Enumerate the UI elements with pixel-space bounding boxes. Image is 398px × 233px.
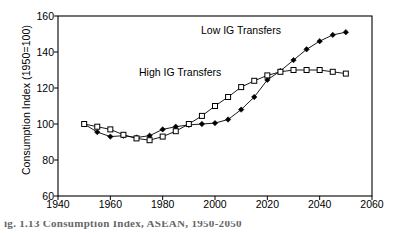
figure-container: Consumption Index (1950=100) 60801001201… (0, 0, 398, 233)
series-open-square (82, 68, 349, 143)
series-filled-diamond (81, 30, 348, 141)
plot-area (0, 0, 398, 233)
series-annotation-high-ig: High IG Transfers (139, 66, 221, 78)
figure-caption: ig. 1.13 Consumption Index, ASEAN, 1950-… (4, 221, 398, 233)
data-series-layer (81, 30, 348, 143)
series-annotation-low-ig: Low IG Transfers (201, 24, 281, 36)
figure-caption-text: ig. 1.13 Consumption Index, ASEAN, 1950-… (4, 221, 242, 229)
